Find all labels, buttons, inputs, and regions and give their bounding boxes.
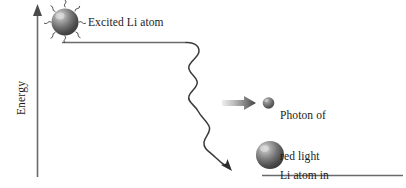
photon-sphere	[263, 97, 275, 109]
energy-level-diagram: Energy Excited Li atom Photon of red lig…	[0, 0, 406, 188]
ground-state-atom-label: Li atom in lower energy state	[280, 142, 366, 188]
photon-emission-wave	[186, 42, 232, 171]
photon-direction-arrow	[222, 96, 256, 110]
photon-label-line-1: Photon of	[280, 109, 326, 123]
ground-state-label-line-1: Li atom in	[280, 169, 366, 183]
excited-li-atom	[44, 0, 85, 42]
excited-atom-label: Excited Li atom	[88, 16, 164, 30]
energy-axis-label: Energy	[15, 68, 27, 128]
energy-axis	[33, 4, 42, 177]
